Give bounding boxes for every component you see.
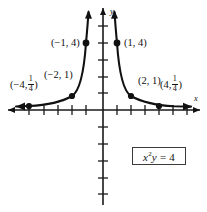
point-label-neg4-fraction: 14 — [28, 75, 34, 93]
point-label-pos2: (2, 1) — [138, 76, 161, 87]
graph-figure: y x (−1, 4) (1, 4) (−2, 1) (2, 1) (−4,14… — [0, 0, 207, 212]
fraction-numerator: 1 — [29, 75, 33, 83]
fraction-denominator: 4 — [173, 85, 177, 93]
point-label-pos4-fraction: 14 — [172, 75, 178, 93]
data-point-pos1 — [114, 40, 121, 47]
data-point-neg4 — [26, 103, 32, 109]
x-axis-arrow-right-icon — [193, 107, 200, 113]
fraction-numerator: 1 — [173, 75, 177, 83]
point-label-pos4: (4,14) — [160, 76, 182, 94]
point-label-pos1-text: (1, 4) — [124, 37, 147, 48]
curve-right-branch — [111, 10, 192, 111]
x-axis-label: x — [193, 93, 198, 103]
equation-box: x2y = 4 — [132, 147, 186, 165]
point-label-pos2-text: (2, 1) — [138, 75, 161, 86]
curve-left-up-arrow-icon — [85, 10, 92, 19]
point-label-neg1: (−1, 4) — [51, 38, 80, 49]
data-point-neg1 — [83, 40, 90, 47]
data-point-pos2 — [128, 93, 134, 99]
y-axis — [98, 8, 108, 205]
point-label-neg4: (−4,14) — [10, 76, 38, 94]
y-axis-arrow-up-icon — [100, 8, 106, 15]
point-label-pos1: (1, 4) — [124, 38, 147, 49]
equation-value: 4 — [169, 150, 175, 162]
data-point-neg2 — [69, 93, 75, 99]
equation-text: x2y = 4 — [143, 150, 175, 163]
point-label-neg1-text: (−1, 4) — [51, 37, 80, 48]
point-label-neg2: (−2, 1) — [44, 70, 73, 81]
data-point-pos4 — [156, 103, 162, 109]
y-axis-label: y — [109, 6, 114, 16]
curve-left-branch — [16, 10, 92, 111]
point-label-pos4-prefix: (4, — [160, 79, 171, 90]
x-axis-arrow-left-icon — [8, 107, 15, 113]
point-label-neg2-text: (−2, 1) — [44, 69, 73, 80]
point-label-neg4-prefix: (−4, — [10, 79, 27, 90]
point-label-pos4-suffix: ) — [178, 79, 182, 90]
coordinate-plane-svg: y x — [0, 0, 207, 212]
fraction-denominator: 4 — [29, 85, 33, 93]
point-label-neg4-suffix: ) — [34, 79, 38, 90]
